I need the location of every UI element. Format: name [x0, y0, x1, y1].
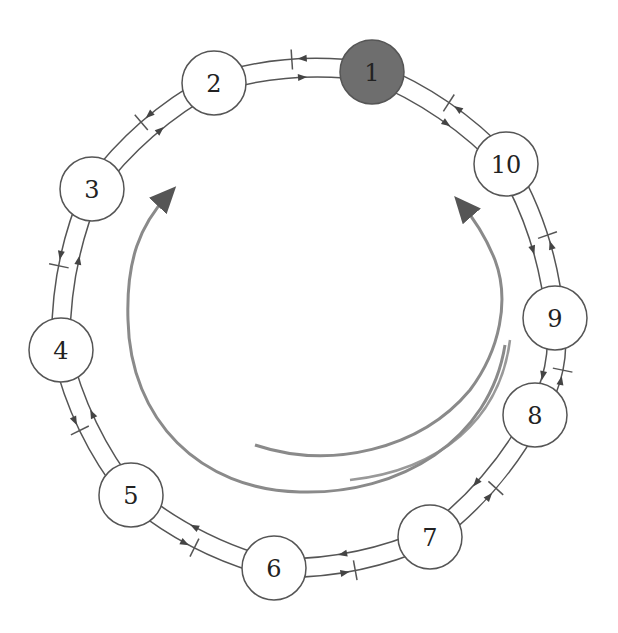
flow-arrow-inner: [255, 205, 502, 456]
node-9: 9: [523, 286, 587, 350]
edge-divider: [71, 426, 89, 435]
direction-arrow-icon: [340, 568, 350, 577]
node-5: 5: [99, 463, 163, 527]
node-8: 8: [503, 383, 567, 447]
node-label: 2: [206, 70, 221, 98]
direction-arrow-icon: [538, 371, 547, 381]
node-6: 6: [242, 536, 306, 600]
node-7: 7: [398, 505, 462, 569]
direction-arrow-icon: [87, 408, 97, 419]
node-label: 10: [491, 151, 522, 179]
node-label: 9: [547, 305, 562, 333]
node-label: 4: [53, 337, 68, 365]
direction-arrow-icon: [298, 73, 307, 81]
node-label: 5: [123, 482, 138, 510]
node-2: 2: [182, 51, 246, 115]
edge-divider: [443, 95, 454, 112]
direction-arrow-icon: [298, 55, 307, 63]
edge-divider: [291, 50, 292, 70]
ring-diagram: 12345678910: [0, 0, 618, 633]
node-label: 3: [84, 176, 99, 204]
direction-arrow-icon: [74, 255, 83, 265]
node-label: 1: [364, 59, 379, 87]
node-label: 6: [266, 555, 281, 583]
edge-divider: [190, 539, 199, 557]
node-10: 10: [474, 132, 538, 196]
node-3: 3: [60, 157, 124, 221]
flow-arrow-outer: [128, 195, 505, 492]
direction-arrow-icon: [70, 416, 80, 427]
direction-arrow-icon: [546, 240, 555, 251]
node-1: 1: [340, 40, 404, 104]
ring-nodes: 12345678910: [29, 40, 587, 600]
direction-arrow-icon: [179, 538, 190, 548]
node-label: 7: [422, 524, 437, 552]
direction-arrow-icon: [528, 245, 537, 256]
flow-arrows: [128, 195, 510, 492]
direction-arrow-icon: [189, 522, 200, 532]
ring-svg: 12345678910: [0, 0, 618, 633]
node-label: 8: [527, 402, 542, 430]
node-4: 4: [29, 318, 93, 382]
